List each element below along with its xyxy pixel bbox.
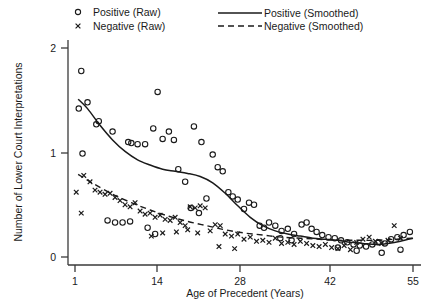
marker-open-circle — [226, 190, 231, 195]
marker-x-cross — [304, 241, 309, 246]
marker-x-cross — [317, 244, 322, 249]
marker-x-cross — [361, 237, 366, 242]
marker-open-circle — [155, 89, 160, 94]
marker-x-cross — [242, 237, 247, 242]
y-tick-label-1: 1 — [50, 147, 56, 159]
marker-x-cross — [208, 229, 213, 234]
marker-open-circle — [112, 220, 117, 225]
marker-x-cross — [79, 211, 84, 216]
marker-open-circle — [398, 247, 403, 252]
marker-open-circle — [135, 141, 140, 146]
marker-open-circle — [304, 220, 309, 225]
x-tick-label-1: 1 — [72, 275, 78, 287]
marker-x-cross — [229, 234, 234, 239]
marker-open-circle — [314, 229, 319, 234]
marker-open-circle — [145, 225, 150, 230]
points-positive-raw — [76, 68, 413, 255]
marker-x-cross — [123, 202, 128, 207]
marker-open-circle — [76, 106, 81, 111]
marker-x-cross — [254, 239, 259, 244]
x-tick-label-55: 55 — [407, 275, 419, 287]
legend-label-positive-smoothed: Positive (Smoothed) — [264, 7, 359, 19]
marker-x-cross — [218, 223, 223, 228]
marker-x-cross — [88, 179, 93, 184]
marker-x-cross — [260, 238, 265, 243]
marker-open-circle — [291, 231, 296, 236]
marker-x-cross — [98, 190, 103, 195]
marker-x-cross — [93, 188, 98, 193]
marker-open-circle — [166, 129, 171, 134]
marker-x-cross — [160, 231, 165, 236]
marker-x-cross — [213, 222, 218, 227]
marker-open-circle — [182, 179, 187, 184]
marker-x-cross — [183, 223, 188, 228]
marker-x-cross — [148, 211, 153, 216]
marker-open-circle — [105, 218, 110, 223]
marker-open-circle — [199, 139, 204, 144]
marker-open-circle — [278, 235, 283, 240]
marker-open-circle — [266, 220, 271, 225]
chart-legend: Positive (Raw) Negative (Raw) Positive (… — [75, 6, 363, 32]
marker-open-circle — [251, 202, 256, 207]
legend-label-negative-smoothed: Negative (Smoothed) — [264, 20, 363, 32]
smoothed-curve-positive — [78, 99, 413, 244]
marker-x-cross — [223, 232, 228, 237]
marker-open-circle — [379, 250, 384, 255]
y-tick-label-0: 0 — [50, 251, 56, 263]
marker-x-cross — [81, 173, 86, 178]
marker-x-cross — [367, 235, 372, 240]
marker-x-cross — [185, 228, 190, 233]
points-negative-raw — [74, 173, 403, 252]
marker-open-circle — [309, 226, 314, 231]
marker-x-cross — [292, 242, 297, 247]
marker-x-cross — [143, 212, 148, 217]
marker-open-circle — [120, 220, 125, 225]
marker-open-circle — [363, 244, 368, 249]
marker-x-cross — [174, 230, 179, 235]
marker-x-cross — [329, 245, 334, 250]
x-axis-title: Age of Precedent (Years) — [186, 287, 304, 299]
marker-open-circle — [196, 210, 201, 215]
marker-x-cross — [267, 240, 272, 245]
marker-x-cross — [163, 217, 168, 222]
marker-open-circle — [80, 151, 85, 156]
marker-x-cross — [128, 205, 133, 210]
marker-x-cross — [108, 191, 113, 196]
marker-x-cross — [217, 244, 222, 249]
marker-x-cross — [153, 215, 158, 220]
marker-x-cross — [74, 190, 79, 195]
marker-open-circle — [79, 68, 84, 73]
marker-open-circle — [85, 100, 90, 105]
marker-open-circle — [160, 136, 165, 141]
marker-x-cross — [138, 209, 143, 214]
marker-open-circle — [171, 137, 176, 142]
marker-x-cross — [103, 192, 108, 197]
marker-x-cross — [323, 242, 328, 247]
marker-open-circle — [407, 229, 412, 234]
legend-marker-positive-raw — [75, 9, 80, 14]
y-tick-label-2: 2 — [50, 42, 56, 54]
marker-open-circle — [354, 248, 359, 253]
marker-x-cross — [203, 206, 208, 211]
marker-x-cross — [311, 243, 316, 248]
marker-open-circle — [110, 129, 115, 134]
y-axis-title: Number of Lower Court Interpretations — [12, 62, 24, 241]
marker-open-circle — [285, 226, 290, 231]
marker-open-circle — [204, 196, 209, 201]
legend-label-negative-raw: Negative (Raw) — [93, 20, 165, 32]
marker-x-cross — [279, 241, 284, 246]
marker-open-circle — [320, 232, 325, 237]
marker-x-cross — [195, 231, 200, 236]
marker-open-circle — [273, 223, 278, 228]
x-tick-label-14: 14 — [151, 275, 163, 287]
marker-open-circle — [210, 152, 215, 157]
marker-open-circle — [151, 126, 156, 131]
legend-label-positive-raw: Positive (Raw) — [93, 6, 161, 18]
x-tick-label-42: 42 — [324, 275, 336, 287]
marker-x-cross — [392, 223, 397, 228]
legend-marker-negative-raw — [76, 24, 81, 29]
marker-x-cross — [118, 198, 123, 203]
chart-plot-area — [74, 68, 413, 255]
marker-x-cross — [348, 247, 353, 252]
marker-x-cross — [168, 218, 173, 223]
